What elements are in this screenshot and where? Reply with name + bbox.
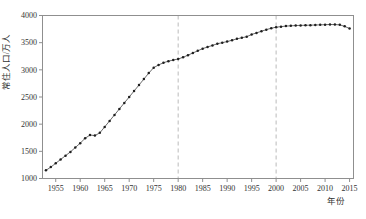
data-point [133, 90, 136, 93]
y-tick-label: 2500 [21, 93, 37, 102]
data-point [231, 39, 234, 42]
data-point [128, 96, 131, 99]
data-point [319, 24, 322, 27]
x-tick-label: 1990 [219, 184, 235, 193]
x-tick-label: 1980 [170, 184, 186, 193]
data-point [157, 64, 160, 67]
data-point [118, 108, 121, 111]
data-point [152, 66, 155, 69]
data-point [177, 58, 180, 61]
data-point [172, 59, 175, 62]
data-point [329, 23, 332, 26]
data-point [187, 54, 190, 57]
y-axis-title: 常住人口/万人 [1, 34, 11, 90]
data-point [79, 142, 82, 145]
data-point [285, 25, 288, 28]
data-point [45, 169, 48, 172]
data-point [197, 50, 200, 53]
x-tick-label: 1965 [97, 184, 113, 193]
population-chart-figure: 1000150020002500300035004000195519601965… [0, 0, 366, 219]
data-point [201, 47, 204, 50]
x-tick-label: 1970 [121, 184, 137, 193]
data-point [348, 27, 351, 30]
data-point [99, 132, 102, 135]
data-point [309, 24, 312, 27]
data-point [211, 44, 214, 47]
data-point [108, 120, 111, 123]
data-point [226, 40, 229, 43]
y-tick-label: 3000 [21, 66, 37, 75]
data-point [236, 38, 239, 41]
data-point [324, 23, 327, 26]
data-point [334, 23, 337, 26]
x-tick-label: 1975 [146, 184, 162, 193]
data-point [103, 126, 106, 129]
data-point [314, 24, 317, 27]
x-tick-label: 1995 [244, 184, 260, 193]
data-point [221, 41, 224, 44]
data-point [216, 43, 219, 46]
x-tick-label: 1955 [48, 184, 64, 193]
data-point [241, 37, 244, 40]
data-point [260, 30, 263, 33]
y-tick-label: 3500 [21, 38, 37, 47]
y-tick-label: 1500 [21, 147, 37, 156]
data-point [270, 27, 273, 30]
x-tick-label: 1985 [195, 184, 211, 193]
data-point [113, 114, 116, 117]
data-point [167, 60, 170, 63]
data-point [245, 35, 248, 38]
data-point [339, 24, 342, 27]
data-point [162, 62, 165, 65]
data-point [304, 24, 307, 27]
x-axis-title: 年份 [327, 196, 345, 206]
data-point [94, 134, 97, 137]
plot-frame [43, 16, 354, 179]
data-point [84, 137, 87, 140]
data-point [59, 158, 62, 161]
data-point [148, 72, 151, 75]
data-point [54, 162, 57, 165]
y-tick-label: 4000 [21, 11, 37, 20]
x-tick-label: 2000 [268, 184, 284, 193]
data-point [294, 24, 297, 27]
x-tick-label: 2005 [293, 184, 309, 193]
data-point [69, 151, 72, 154]
data-point [275, 26, 278, 29]
data-point [290, 25, 293, 28]
data-point [255, 32, 258, 35]
data-point [299, 24, 302, 27]
data-point [89, 134, 92, 137]
data-point [265, 28, 268, 31]
y-tick-label: 2000 [21, 120, 37, 129]
data-point [206, 46, 209, 49]
data-point [123, 102, 126, 105]
data-point [343, 25, 346, 28]
population-line [46, 25, 350, 171]
data-point [143, 78, 146, 81]
x-tick-label: 2010 [317, 184, 333, 193]
data-point [280, 25, 283, 28]
y-tick-label: 1000 [21, 174, 37, 183]
data-point [250, 33, 253, 36]
data-point [50, 166, 53, 169]
data-point [138, 84, 141, 87]
population-line-chart: 1000150020002500300035004000195519601965… [0, 0, 366, 219]
data-point [192, 52, 195, 55]
data-point [182, 56, 185, 59]
data-point [64, 154, 67, 157]
x-tick-label: 1960 [72, 184, 88, 193]
data-point [74, 146, 77, 149]
x-tick-label: 2015 [342, 184, 358, 193]
